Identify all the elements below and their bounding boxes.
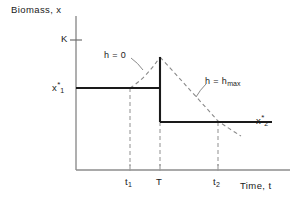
endpoint-label-x2: x*2: [256, 113, 268, 127]
dashed-curve-h-max: [160, 57, 241, 136]
x-tick-label-T: T: [156, 176, 162, 187]
x2-subscript: 2: [264, 120, 268, 127]
h-max-base: h = h: [205, 76, 227, 86]
x-tick-label-t2: t2: [213, 176, 220, 188]
T-base: T: [156, 176, 162, 187]
dashed-curve-h-zero: [130, 57, 160, 88]
annotation-h-max: h = hmax: [205, 76, 241, 87]
h-max-subscript: max: [227, 80, 240, 87]
biomass-time-diagram: Biomass, x Time, t K x*1 x*2 t1 T t2 h =…: [0, 0, 306, 202]
plot-canvas: [0, 0, 306, 202]
annotation-h-zero: h = 0: [104, 50, 126, 60]
x1-subscript: 1: [60, 87, 64, 94]
x-tick-label-t1: t1: [125, 176, 132, 188]
leader-line-h-zero: [131, 58, 143, 70]
y-tick-label-K: K: [61, 33, 68, 44]
t1-subscript: 1: [128, 181, 132, 188]
x-axis-label: Time, t: [240, 180, 271, 191]
y-tick-label-x1: x*1: [52, 80, 64, 94]
t2-subscript: 2: [216, 181, 220, 188]
y-axis-label: Biomass, x: [11, 4, 61, 15]
